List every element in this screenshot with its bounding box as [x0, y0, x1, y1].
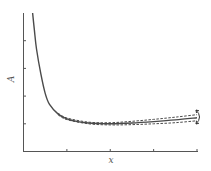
y-axis-label: A [6, 75, 16, 83]
tick-marks [24, 41, 198, 152]
axes [23, 13, 198, 152]
chart: x A [0, 0, 211, 171]
x-axis-label: x [108, 155, 113, 165]
plot-series [33, 13, 197, 125]
curved-double-arrow-icon [196, 110, 200, 124]
fit-line [33, 13, 197, 124]
